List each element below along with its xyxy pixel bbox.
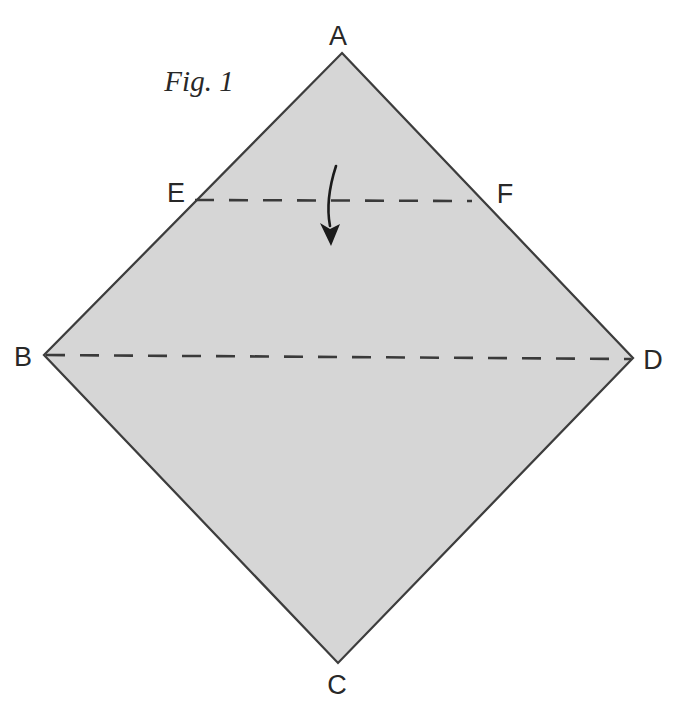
fold-point-label-e: E <box>167 178 185 208</box>
figure-caption: Fig. 1 <box>163 65 233 97</box>
origami-step-diagram: Fig. 1 A B C D E F <box>0 0 680 711</box>
vertex-label-a: A <box>329 21 347 51</box>
vertex-label-c: C <box>327 670 347 700</box>
figure-page: Fig. 1 A B C D E F <box>0 0 680 711</box>
paper-square <box>44 53 633 663</box>
vertex-label-b: B <box>14 342 32 372</box>
vertex-label-d: D <box>643 345 663 375</box>
fold-point-label-f: F <box>497 179 514 209</box>
